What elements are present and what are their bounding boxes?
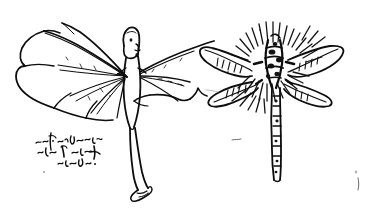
semantic-labels: Bat-winged flying figure Frontal standin… <box>0 0 392 209</box>
manuscript-sheet: Manuscript study sheet: bat-winged flyin… <box>0 0 392 209</box>
